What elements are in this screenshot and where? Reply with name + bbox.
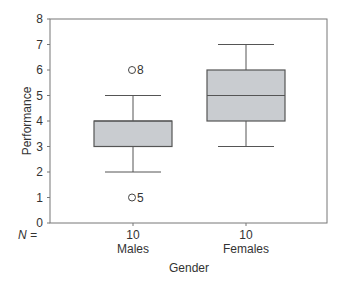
boxes: 85 xyxy=(94,45,285,205)
outlier-label: 8 xyxy=(137,63,144,77)
outlier-marker xyxy=(129,67,136,74)
box-males: 85 xyxy=(94,63,172,205)
x-axis: 10Males10Females xyxy=(117,223,269,256)
y-tick-label: 8 xyxy=(36,12,43,26)
outlier-label: 5 xyxy=(137,191,144,205)
n-value: 10 xyxy=(239,228,253,242)
y-axis: 012345678 xyxy=(36,12,50,230)
y-tick-label: 3 xyxy=(36,140,43,154)
y-tick-label: 7 xyxy=(36,38,43,52)
iqr-box xyxy=(94,121,172,147)
y-tick-label: 4 xyxy=(36,114,43,128)
x-axis-label: Gender xyxy=(169,261,209,275)
n-label: N = xyxy=(18,228,37,242)
n-value: 10 xyxy=(126,228,140,242)
y-tick-label: 6 xyxy=(36,63,43,77)
x-category-label: Females xyxy=(223,242,269,256)
y-tick-label: 1 xyxy=(36,191,43,205)
outlier-marker xyxy=(129,194,136,201)
boxplot-chart: 012345678 85 10Males10Females Performanc… xyxy=(0,0,341,284)
y-tick-label: 2 xyxy=(36,165,43,179)
y-tick-label: 5 xyxy=(36,89,43,103)
y-axis-label: Performance xyxy=(20,86,34,155)
y-tick-label: 0 xyxy=(36,216,43,230)
x-category-label: Males xyxy=(117,242,149,256)
box-females xyxy=(207,45,285,147)
